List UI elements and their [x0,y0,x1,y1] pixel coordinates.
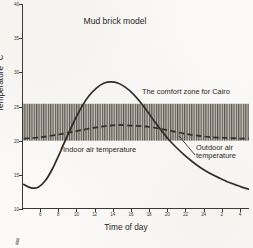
indoor-air-temperature-label: Indoor air temperature [63,146,136,154]
annotation-leader-lines [0,0,253,248]
comfort-zone-label: The comfort zone for Cairo [142,88,230,96]
outdoor-label-line2: temperature [196,152,240,160]
chart-figure: Mud brick model Temperature °C Time of d… [0,0,253,248]
outdoor-air-temperature-label: Outdoor air temperature [196,144,240,161]
outdoor-leader-line [179,136,195,155]
